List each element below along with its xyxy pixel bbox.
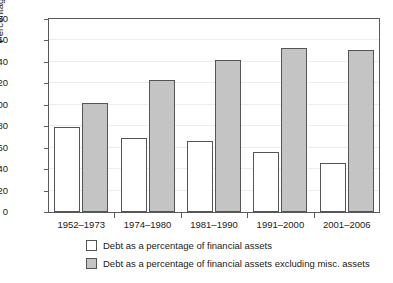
y-axis-tick-label: 60 — [0, 143, 8, 153]
white-square-icon — [86, 240, 97, 251]
bar — [121, 138, 147, 212]
y-axis-tick-label: 20 — [0, 186, 8, 196]
y-axis-tick-label: 180 — [0, 14, 8, 24]
bar — [215, 60, 241, 212]
y-axis-tick-label: 80 — [0, 121, 8, 131]
gray-square-icon — [86, 258, 97, 269]
x-axis-tick-mark — [247, 213, 248, 218]
x-axis-tick-label: 2001–2006 — [323, 219, 371, 230]
bar — [320, 163, 346, 212]
x-axis-tick-label: 1981–1990 — [190, 219, 238, 230]
bars-layer — [48, 18, 380, 212]
x-axis-tick-mark — [114, 213, 115, 218]
legend-item-label: Debt as a percentage of financial assets — [103, 240, 272, 251]
y-axis-tick-label: 140 — [0, 57, 8, 67]
x-axis-tick-mark — [181, 213, 182, 218]
bar — [253, 152, 279, 212]
y-axis-tick-label: 40 — [0, 164, 8, 174]
x-axis-tick-label: 1974–1980 — [124, 219, 172, 230]
chart-legend: Debt as a percentage of financial assets… — [86, 240, 386, 276]
x-axis-tick-mark — [314, 213, 315, 218]
bar — [187, 141, 213, 212]
y-axis-tick-label: 120 — [0, 78, 8, 88]
bar — [54, 127, 80, 212]
y-axis-tick-label: 100 — [0, 100, 8, 110]
bar — [281, 48, 307, 212]
y-axis-tick-label: 160 — [0, 35, 8, 45]
bar — [82, 103, 108, 212]
bar — [348, 50, 374, 212]
bar — [149, 80, 175, 212]
x-axis-tick-label: 1991–2000 — [257, 219, 305, 230]
legend-item: Debt as a percentage of financial assets — [86, 240, 386, 251]
legend-item-label: Debt as a percentage of financial assets… — [103, 258, 370, 269]
y-axis-tick-label: 0 — [0, 207, 8, 217]
legend-item: Debt as a percentage of financial assets… — [86, 258, 386, 269]
x-axis-tick-label: 1952–1973 — [57, 219, 105, 230]
bar-chart-figure: Percentage 180160140120100806040200 1952… — [0, 0, 393, 283]
